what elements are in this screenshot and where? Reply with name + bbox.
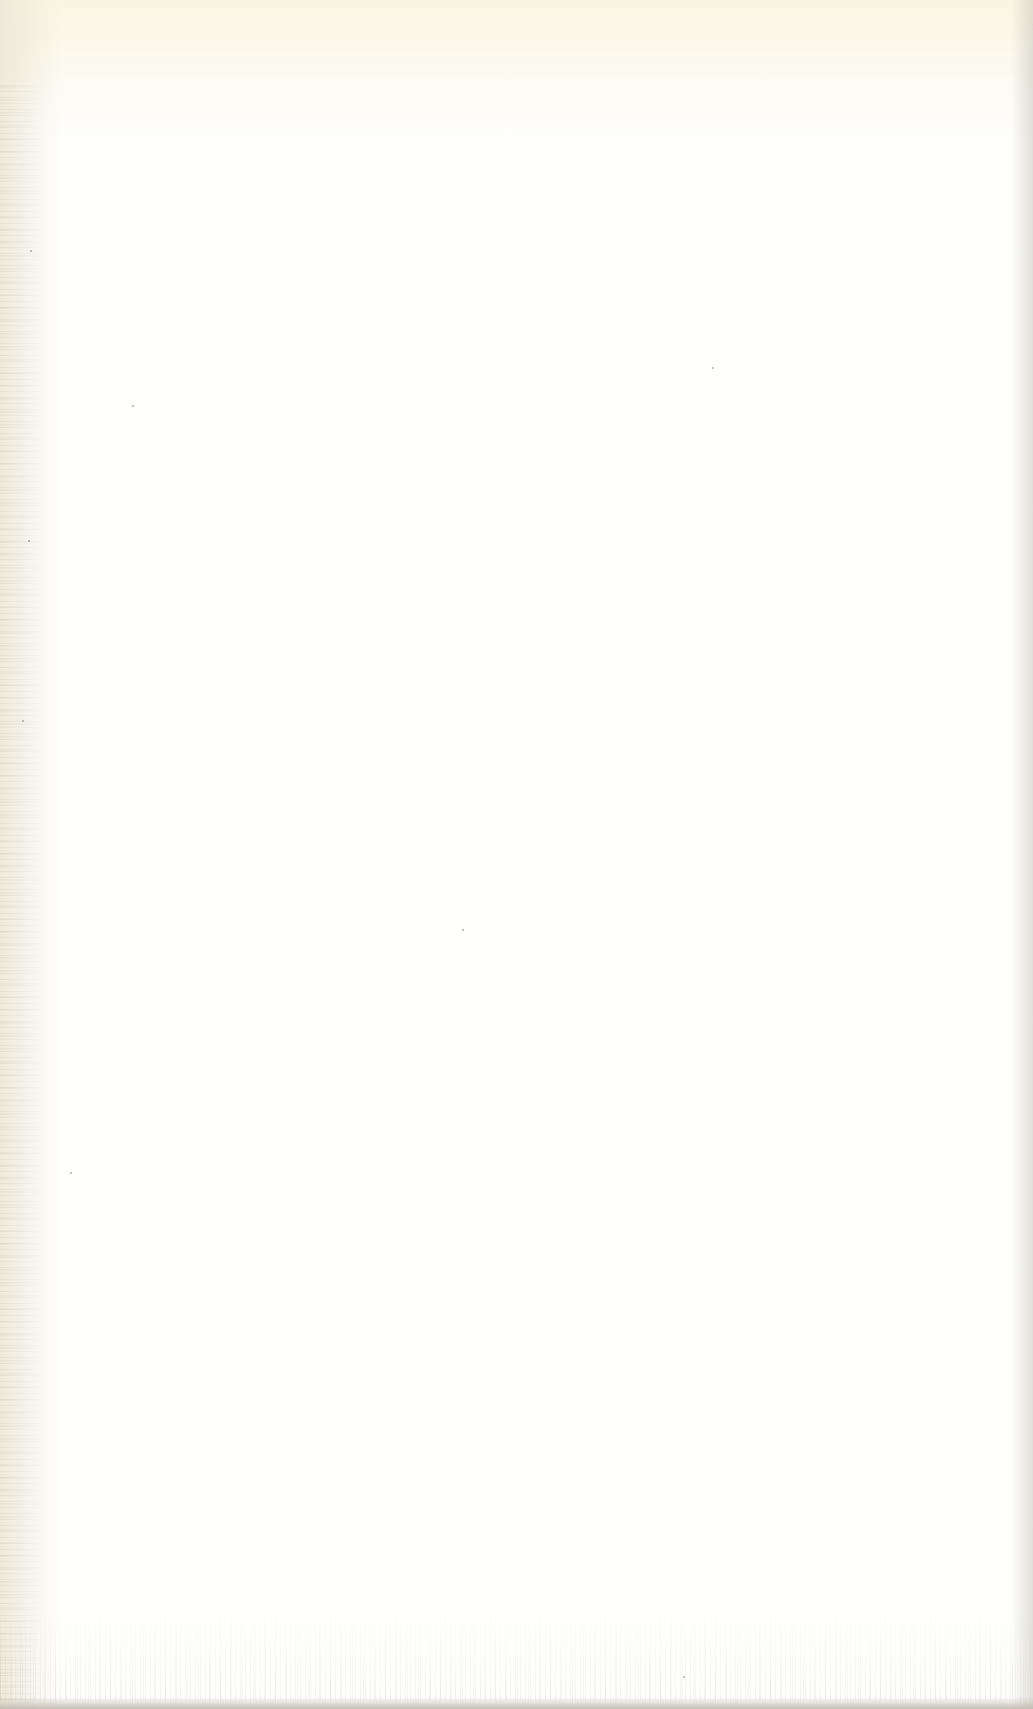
- scan-speck: [28, 540, 30, 542]
- blank-scanned-page: [0, 0, 1033, 1709]
- scan-speck: [22, 720, 24, 722]
- scan-speck: [712, 367, 714, 369]
- scan-noise-bottom-edge: [0, 1611, 1033, 1701]
- paper-yellowing-top: [0, 0, 1033, 140]
- scan-speck: [683, 1676, 685, 1678]
- scan-shadow-bottom-edge: [0, 1697, 1033, 1709]
- scan-speck: [132, 405, 134, 407]
- scan-speck: [70, 1172, 72, 1174]
- scan-noise-left-edge: [0, 80, 45, 1700]
- scan-speck: [462, 929, 464, 931]
- scan-shadow-right-edge: [1011, 0, 1033, 1709]
- scan-speck: [30, 250, 32, 252]
